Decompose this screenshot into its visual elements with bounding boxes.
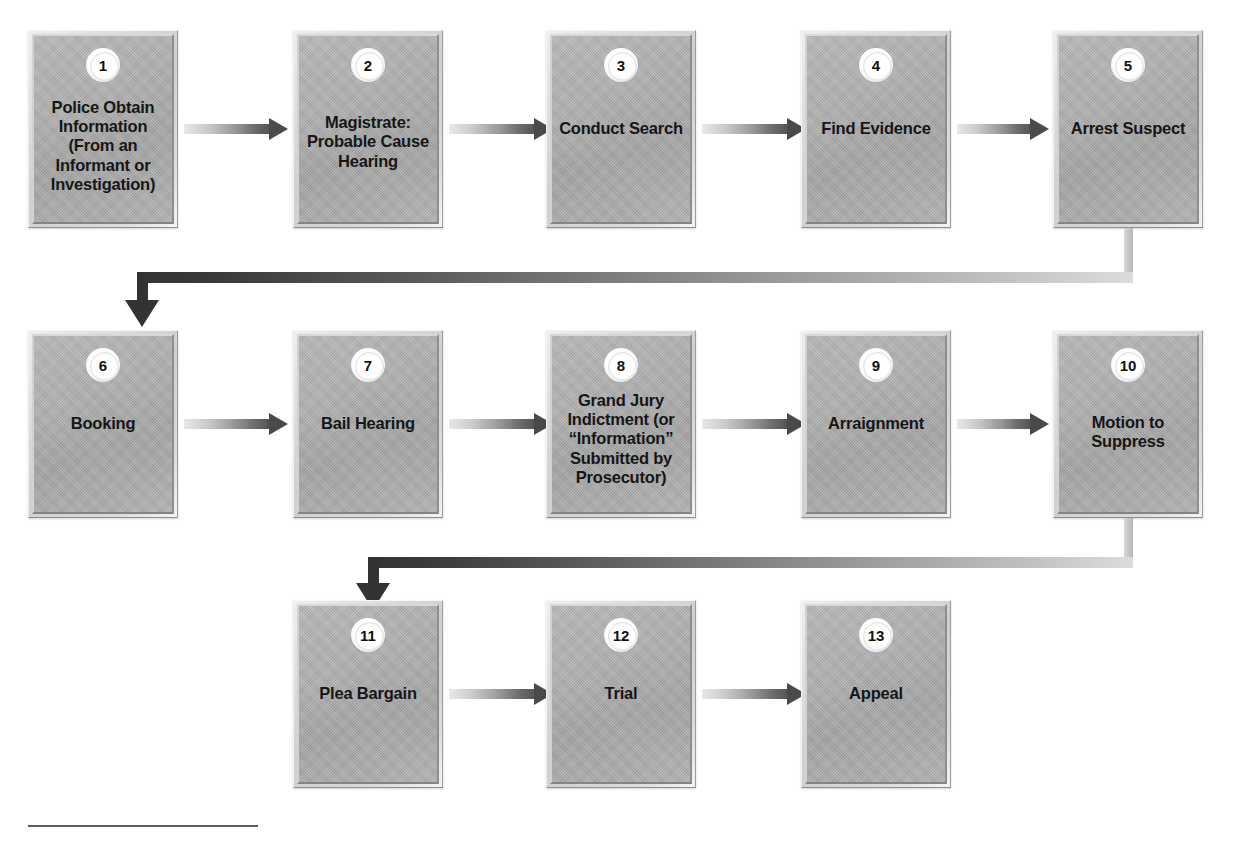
connector-1-to-2: [184, 118, 288, 140]
connector-4-to-5-shaft: [957, 124, 1030, 134]
connector-5-to-6-arrowhead: [125, 300, 159, 327]
node-3-body: 3 Conduct Search: [550, 34, 692, 224]
process-node-4[interactable]: 4 Find Evidence: [801, 30, 951, 228]
connector-11-to-12: [449, 683, 553, 705]
process-node-3[interactable]: 3 Conduct Search: [546, 30, 696, 228]
node-4-label: Find Evidence: [817, 119, 934, 138]
node-11-step-badge: 11: [351, 618, 385, 652]
node-2-label: Magistrate: Probable Cause Hearing: [303, 113, 433, 170]
connector-4-to-5: [957, 118, 1049, 140]
node-12-body: 12 Trial: [550, 604, 692, 784]
node-3-step-number: 3: [617, 58, 625, 73]
node-1-label: Police Obtain Information (From an Infor…: [47, 98, 159, 194]
node-2-step-number: 2: [364, 58, 372, 73]
node-6-step-number: 6: [99, 358, 107, 373]
connector-7-to-8: [449, 413, 553, 435]
node-3-label: Conduct Search: [555, 119, 687, 138]
node-5-label: Arrest Suspect: [1067, 119, 1190, 138]
node-4-step-badge: 4: [859, 48, 893, 82]
node-9-step-number: 9: [872, 358, 880, 373]
node-4-step-number: 4: [872, 58, 880, 73]
node-12-step-number: 12: [613, 628, 630, 643]
node-11-label: Plea Bargain: [315, 684, 421, 703]
node-7-body: 7 Bail Hearing: [297, 334, 439, 514]
connector-6-to-7: [184, 413, 288, 435]
node-9-body: 9 Arraignment: [805, 334, 947, 514]
node-2-body: 2 Magistrate: Probable Cause Hearing: [297, 34, 439, 224]
node-7-label: Bail Hearing: [317, 414, 419, 433]
node-1-body: 1 Police Obtain Information (From an Inf…: [32, 34, 174, 224]
connector-1-to-2-shaft: [184, 124, 269, 134]
connector-7-to-8-shaft: [449, 419, 534, 429]
node-13-step-badge: 13: [859, 618, 893, 652]
node-10-step-number: 10: [1120, 358, 1137, 373]
process-node-13[interactable]: 13 Appeal: [801, 600, 951, 788]
connector-2-to-3: [449, 118, 553, 140]
node-8-step-badge: 8: [604, 348, 638, 382]
process-node-5[interactable]: 5 Arrest Suspect: [1053, 30, 1203, 228]
node-8-label: Grand Jury Indictment (or “Information” …: [563, 391, 678, 487]
process-node-10[interactable]: 10 Motion to Suppress: [1053, 330, 1203, 518]
node-7-step-badge: 7: [351, 348, 385, 382]
connector-9-to-10-shaft: [957, 419, 1030, 429]
node-10-label: Motion to Suppress: [1087, 413, 1169, 451]
process-node-2[interactable]: 2 Magistrate: Probable Cause Hearing: [293, 30, 443, 228]
process-node-9[interactable]: 9 Arraignment: [801, 330, 951, 518]
node-1-step-number: 1: [99, 58, 107, 73]
node-13-label: Appeal: [845, 684, 907, 703]
node-5-body: 5 Arrest Suspect: [1057, 34, 1199, 224]
flowchart-canvas: 1 Police Obtain Information (From an Inf…: [0, 0, 1238, 843]
node-10-step-badge: 10: [1111, 348, 1145, 382]
node-3-step-badge: 3: [604, 48, 638, 82]
connector-8-to-9: [702, 413, 806, 435]
process-node-1[interactable]: 1 Police Obtain Information (From an Inf…: [28, 30, 178, 228]
node-6-step-badge: 6: [86, 348, 120, 382]
connector-11-to-12-shaft: [449, 689, 534, 699]
node-6-body: 6 Booking: [32, 334, 174, 514]
process-node-11[interactable]: 11 Plea Bargain: [293, 600, 443, 788]
connector-3-to-4-shaft: [702, 124, 787, 134]
connector-10-to-11-run: [368, 557, 1133, 568]
connector-1-to-2-arrowhead: [269, 118, 288, 140]
connector-8-to-9-shaft: [702, 419, 787, 429]
connector-5-to-6-run: [137, 272, 1133, 283]
node-5-step-number: 5: [1124, 58, 1132, 73]
connector-9-to-10: [957, 413, 1049, 435]
node-10-body: 10 Motion to Suppress: [1057, 334, 1199, 514]
connector-6-to-7-arrowhead: [269, 413, 288, 435]
process-node-12[interactable]: 12 Trial: [546, 600, 696, 788]
node-4-body: 4 Find Evidence: [805, 34, 947, 224]
node-7-step-number: 7: [364, 358, 372, 373]
connector-4-to-5-arrowhead: [1030, 118, 1049, 140]
node-6-label: Booking: [67, 414, 140, 433]
node-9-label: Arraignment: [824, 414, 928, 433]
connector-3-to-4: [702, 118, 806, 140]
connector-6-to-7-shaft: [184, 419, 269, 429]
node-13-step-number: 13: [868, 628, 885, 643]
connector-2-to-3-shaft: [449, 124, 534, 134]
connector-12-to-13: [702, 683, 806, 705]
node-12-label: Trial: [601, 684, 642, 703]
process-node-6[interactable]: 6 Booking: [28, 330, 178, 518]
node-11-step-number: 11: [360, 628, 376, 643]
footnote-separator-rule: [28, 825, 258, 827]
process-node-8[interactable]: 8 Grand Jury Indictment (or “Information…: [546, 330, 696, 518]
node-8-body: 8 Grand Jury Indictment (or “Information…: [550, 334, 692, 514]
node-2-step-badge: 2: [351, 48, 385, 82]
node-11-body: 11 Plea Bargain: [297, 604, 439, 784]
node-1-step-badge: 1: [86, 48, 120, 82]
connector-9-to-10-arrowhead: [1030, 413, 1049, 435]
node-5-step-badge: 5: [1111, 48, 1145, 82]
connector-12-to-13-shaft: [702, 689, 787, 699]
node-13-body: 13 Appeal: [805, 604, 947, 784]
process-node-7[interactable]: 7 Bail Hearing: [293, 330, 443, 518]
node-12-step-badge: 12: [604, 618, 638, 652]
node-8-step-number: 8: [617, 358, 625, 373]
node-9-step-badge: 9: [859, 348, 893, 382]
